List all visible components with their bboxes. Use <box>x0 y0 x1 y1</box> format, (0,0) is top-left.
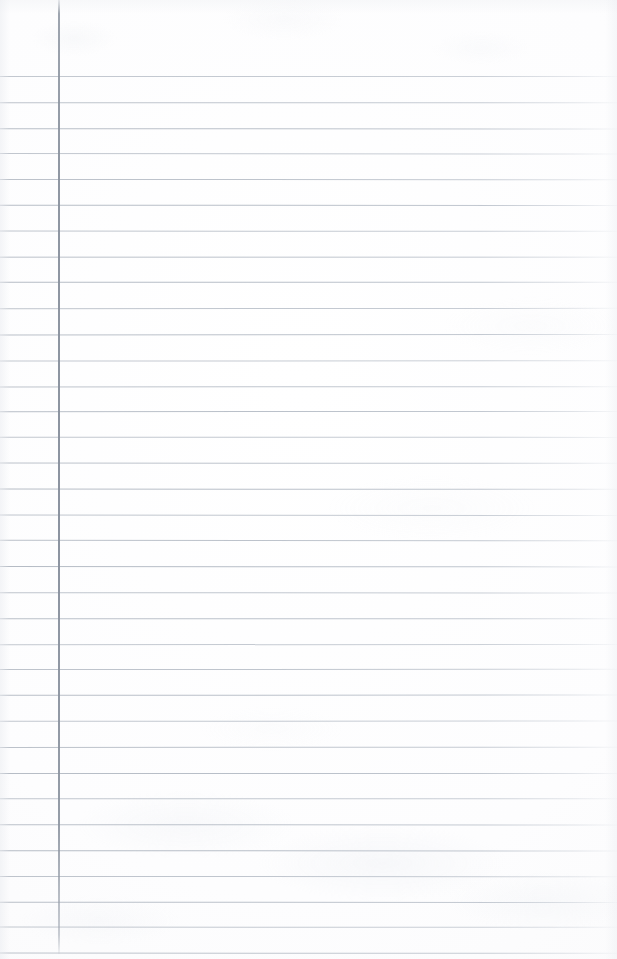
blank-top-margin <box>0 0 617 76</box>
writing-area <box>58 76 617 959</box>
notebook-page <box>0 0 617 959</box>
